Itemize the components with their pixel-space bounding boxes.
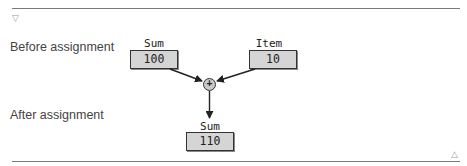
flow-arrows: [0, 0, 467, 166]
plus-operator-symbol: +: [204, 77, 215, 91]
expand-triangle-icon[interactable]: △: [451, 150, 458, 159]
bottom-divider: [12, 161, 460, 162]
